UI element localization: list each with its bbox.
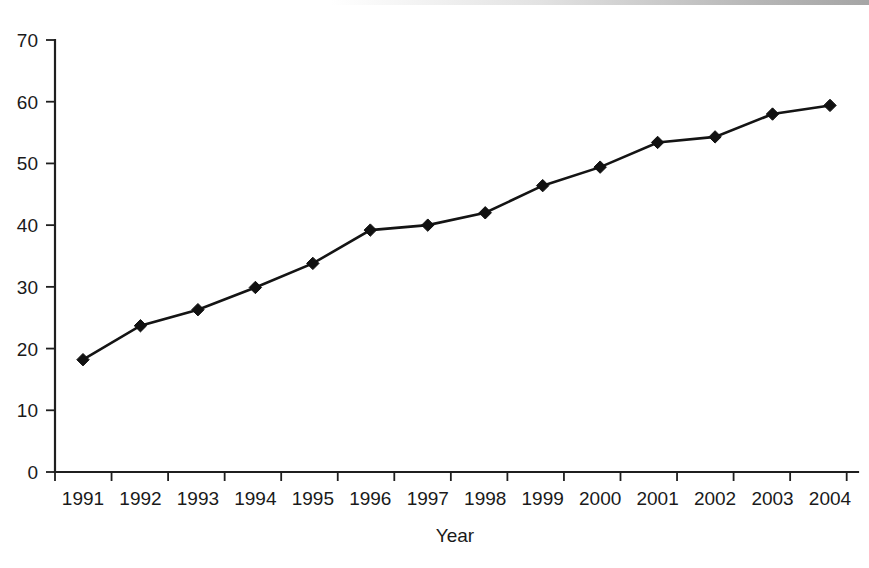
y-axis-tick-label: 60 (17, 92, 38, 113)
data-point-marker (709, 131, 721, 143)
y-axis-tick-label: 70 (17, 30, 38, 51)
data-point-marker (479, 207, 491, 219)
x-axis-tick-label: 2001 (636, 488, 678, 509)
data-point-marker (536, 179, 548, 191)
data-point-marker (651, 136, 663, 148)
y-axis-tick-label: 50 (17, 153, 38, 174)
x-axis-tick-label: 1992 (119, 488, 161, 509)
data-point-marker (766, 108, 778, 120)
x-axis-tick-label: 2002 (694, 488, 736, 509)
data-point-marker (364, 224, 376, 236)
y-axis-ticks (46, 40, 55, 472)
y-axis-tick-label: 10 (17, 400, 38, 421)
data-point-marker (192, 303, 204, 315)
x-axis-tick-labels: 1991199219931994199519961997199819992000… (62, 488, 852, 509)
series-line (83, 105, 830, 359)
data-point-marker (249, 281, 261, 293)
y-axis-tick-label: 20 (17, 339, 38, 360)
x-axis-tick-label: 1994 (234, 488, 277, 509)
y-axis-tick-label: 0 (27, 462, 38, 483)
chart-container: 010203040506070 199119921993199419951996… (0, 0, 869, 568)
x-axis-tick-label: 2003 (751, 488, 793, 509)
x-axis-tick-label: 1996 (349, 488, 391, 509)
x-axis-tick-label: 2004 (809, 488, 852, 509)
x-axis-tick-label: 1998 (464, 488, 506, 509)
data-point-marker (77, 353, 89, 365)
data-point-marker (594, 161, 606, 173)
x-axis-tick-label: 1991 (62, 488, 104, 509)
x-axis-title: Year (436, 525, 475, 546)
y-axis-tick-labels: 010203040506070 (17, 30, 38, 483)
y-axis-tick-label: 30 (17, 277, 38, 298)
data-point-marker (422, 219, 434, 231)
x-axis-tick-label: 1999 (522, 488, 564, 509)
x-axis-tick-label: 2000 (579, 488, 621, 509)
data-point-marker (134, 320, 146, 332)
x-axis-ticks (55, 472, 847, 481)
x-axis-tick-label: 1997 (407, 488, 449, 509)
data-point-marker (824, 99, 836, 111)
y-axis-tick-label: 40 (17, 215, 38, 236)
line-chart: 010203040506070 199119921993199419951996… (0, 0, 869, 568)
x-axis-tick-label: 1995 (292, 488, 334, 509)
data-point-marker (307, 257, 319, 269)
x-axis-tick-label: 1993 (177, 488, 219, 509)
series-markers (77, 99, 836, 366)
